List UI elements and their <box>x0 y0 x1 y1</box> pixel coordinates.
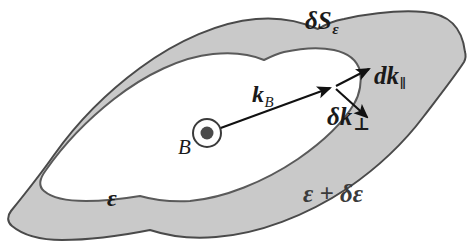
label-epsilon-inner: ε <box>107 186 117 210</box>
label-delta-S-main: δS <box>305 7 332 34</box>
label-k-B-subscript: B <box>264 94 274 110</box>
label-dk-parallel: dk‖ <box>374 63 406 93</box>
label-delta-S-subscript: ε <box>332 20 339 37</box>
field-out-of-page-icon-dot <box>201 127 214 140</box>
label-delta-S-epsilon: δSε <box>305 8 339 36</box>
label-B-field: B <box>178 137 191 158</box>
label-delta-k-perp-subscript: ⊥ <box>352 114 370 134</box>
figure-root: δSε dk‖ δk⊥ kB B ε ε + δε <box>0 0 473 243</box>
diagram-svg <box>0 0 473 243</box>
label-delta-k-perp-main: δk <box>327 103 352 130</box>
label-dk-parallel-subscript: ‖ <box>399 73 406 93</box>
label-k-B-main: k <box>252 81 264 107</box>
label-k-B: kB <box>252 82 274 110</box>
label-delta-k-perpendicular: δk⊥ <box>327 104 370 134</box>
label-dk-parallel-main: dk <box>374 62 399 89</box>
label-epsilon-plus-delta-epsilon: ε + δε <box>303 181 363 206</box>
